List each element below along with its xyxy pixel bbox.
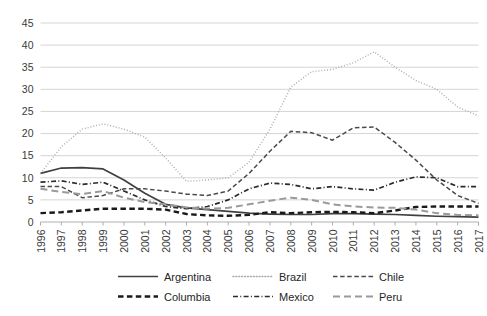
x-tick-label: 1998 <box>76 229 88 253</box>
x-tick-label: 2007 <box>264 229 276 253</box>
x-tick-label: 2002 <box>160 229 172 253</box>
x-axis-tick-labels: 1996199719981999200020012002200320042005… <box>35 229 485 253</box>
legend-item-argentina[interactable]: Argentina <box>118 271 212 283</box>
x-tick-label: 2011 <box>347 229 359 252</box>
chart-canvas: 051015202530354045 199619971998199920002… <box>0 0 487 316</box>
y-tick-label: 25 <box>22 105 34 117</box>
x-tick-label: 2015 <box>431 229 443 253</box>
x-tick-label: 2004 <box>201 229 213 253</box>
y-tick-label: 40 <box>22 39 34 51</box>
series-line-peru <box>41 189 479 216</box>
x-tick-label: 2005 <box>222 229 234 253</box>
legend-item-mexico[interactable]: Mexico <box>233 291 314 303</box>
legend-item-chile[interactable]: Chile <box>333 271 404 283</box>
x-tick-label: 2001 <box>139 229 151 253</box>
y-tick-label: 30 <box>22 83 34 95</box>
data-series-group <box>41 52 479 217</box>
gridlines-group <box>41 23 479 226</box>
x-tick-label: 2000 <box>118 229 130 253</box>
x-tick-label: 1999 <box>97 229 109 253</box>
x-tick-label: 2017 <box>473 229 485 253</box>
x-tick-label: 2012 <box>368 229 380 253</box>
x-tick-label: 2014 <box>410 229 422 253</box>
legend-label: Mexico <box>279 291 314 303</box>
x-tick-label: 1996 <box>35 229 47 253</box>
y-tick-label: 35 <box>22 61 34 73</box>
y-tick-label: 10 <box>22 172 34 184</box>
legend-label: Chile <box>379 271 404 283</box>
x-tick-label: 2009 <box>306 229 318 253</box>
x-tick-label: 2003 <box>181 229 193 253</box>
y-tick-label: 15 <box>22 149 34 161</box>
legend-item-columbia[interactable]: Columbia <box>118 291 211 303</box>
y-tick-label: 20 <box>22 127 34 139</box>
x-tick-label: 1997 <box>55 229 67 253</box>
x-tick-label: 2013 <box>389 229 401 253</box>
legend-label: Brazil <box>279 271 307 283</box>
y-axis-tick-labels: 051015202530354045 <box>22 17 34 228</box>
y-tick-label: 5 <box>28 194 34 206</box>
x-tick-label: 2006 <box>243 229 255 253</box>
legend: ArgentinaBrazilChileColumbiaMexicoPeru <box>118 271 404 303</box>
x-tick-label: 2010 <box>327 229 339 253</box>
legend-label: Columbia <box>164 291 211 303</box>
line-chart: 051015202530354045 199619971998199920002… <box>0 0 487 316</box>
x-tick-label: 2008 <box>285 229 297 253</box>
y-tick-label: 45 <box>22 17 34 29</box>
x-tick-label: 2016 <box>452 229 464 253</box>
legend-label: Peru <box>379 291 402 303</box>
legend-item-peru[interactable]: Peru <box>333 291 402 303</box>
legend-label: Argentina <box>164 271 212 283</box>
y-tick-label: 0 <box>28 216 34 228</box>
legend-item-brazil[interactable]: Brazil <box>233 271 307 283</box>
